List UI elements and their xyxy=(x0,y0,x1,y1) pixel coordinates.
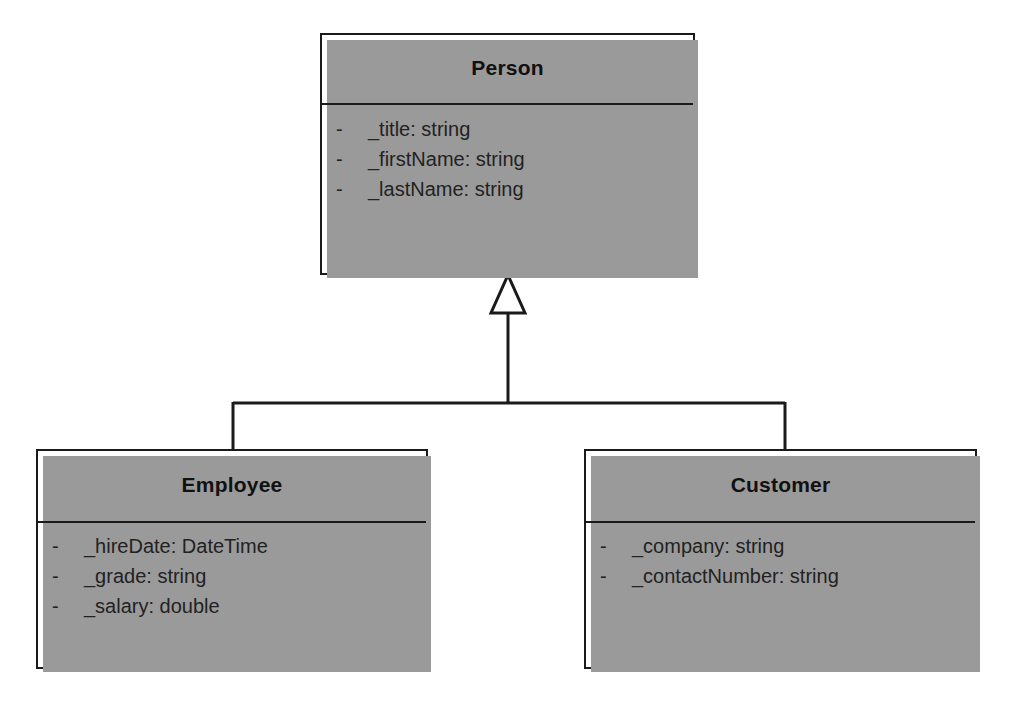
attribute-label: _title: string xyxy=(368,118,470,141)
class-box-employee[interactable]: Employee - _hireDate: DateTime - _grade:… xyxy=(36,449,428,669)
attribute-label: _hireDate: DateTime xyxy=(84,535,268,558)
attribute-row: - _company: string xyxy=(600,535,975,565)
class-name-customer: Customer xyxy=(586,451,975,521)
attribute-compartment-customer: - _company: string - _contactNumber: str… xyxy=(586,521,975,667)
visibility-marker: - xyxy=(600,565,632,588)
attribute-row: - _contactNumber: string xyxy=(600,565,975,595)
class-box-person[interactable]: Person - _title: string - _firstName: st… xyxy=(320,33,695,275)
attribute-label: _salary: double xyxy=(84,595,220,618)
visibility-marker: - xyxy=(52,565,84,588)
attribute-row: - _lastName: string xyxy=(336,178,693,208)
attribute-label: _contactNumber: string xyxy=(632,565,839,588)
attribute-row: - _hireDate: DateTime xyxy=(52,535,426,565)
visibility-marker: - xyxy=(336,178,368,201)
class-name-employee: Employee xyxy=(38,451,426,521)
attribute-label: _firstName: string xyxy=(368,148,525,171)
attribute-row: - _firstName: string xyxy=(336,148,693,178)
class-box-customer[interactable]: Customer - _company: string - _contactNu… xyxy=(584,449,977,669)
visibility-marker: - xyxy=(52,535,84,558)
visibility-marker: - xyxy=(336,148,368,171)
visibility-marker: - xyxy=(52,595,84,618)
class-name-person: Person xyxy=(322,35,693,103)
visibility-marker: - xyxy=(600,535,632,558)
inheritance-triangle-arrowhead xyxy=(491,275,525,313)
attribute-compartment-person: - _title: string - _firstName: string - … xyxy=(322,103,693,273)
attribute-label: _grade: string xyxy=(84,565,206,588)
attribute-row: - _grade: string xyxy=(52,565,426,595)
attribute-label: _company: string xyxy=(632,535,784,558)
attribute-row: - _title: string xyxy=(336,118,693,148)
visibility-marker: - xyxy=(336,118,368,141)
diagram-canvas: Person - _title: string - _firstName: st… xyxy=(0,0,1018,705)
attribute-label: _lastName: string xyxy=(368,178,524,201)
attribute-row: - _salary: double xyxy=(52,595,426,625)
attribute-compartment-employee: - _hireDate: DateTime - _grade: string -… xyxy=(38,521,426,667)
